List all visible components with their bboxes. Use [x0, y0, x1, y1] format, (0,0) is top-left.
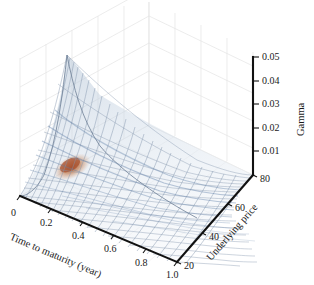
x-tick-label-1: 0.2 — [40, 218, 53, 228]
y-tick-label-0: 20 — [184, 261, 194, 271]
x-tick-label-0: 0 — [11, 208, 16, 218]
x-tick-label-4: 0.8 — [135, 258, 148, 268]
z-tick-label-3: 0.04 — [262, 76, 280, 86]
z-tick-label-2: 0.03 — [262, 99, 280, 109]
z-tick-label-1: 0.02 — [262, 123, 280, 133]
z-tick-label-4: 0.05 — [262, 52, 280, 62]
x-tick-label-5: 1.0 — [166, 270, 179, 280]
z-tick-label-0: 0.01 — [262, 146, 280, 156]
y-tick-label-3: 80 — [260, 174, 270, 184]
gamma-surface-figure: 0 0.2 0.4 0.6 0.8 1.0 Time to maturity (… — [0, 0, 314, 285]
z-axis-title: Gamma — [296, 103, 307, 136]
x-tick-label-3: 0.6 — [104, 244, 117, 254]
x-tick-label-2: 0.4 — [72, 231, 85, 241]
surface-plot-canvas — [0, 0, 314, 285]
